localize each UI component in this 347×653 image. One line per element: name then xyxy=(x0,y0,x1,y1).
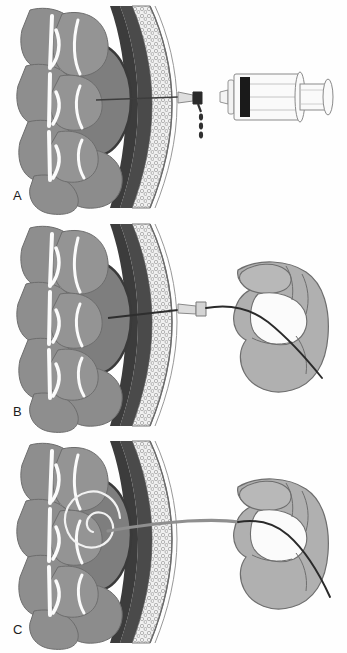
syringe-tip xyxy=(220,90,228,104)
syringe-plunger-rod xyxy=(300,84,326,110)
panel-label-b: B xyxy=(13,404,22,419)
needle-hub xyxy=(178,304,196,314)
panel-label-c: C xyxy=(13,622,23,637)
panel-b-illustration xyxy=(0,218,347,436)
fluid-droplets xyxy=(199,114,203,139)
panel-a xyxy=(0,0,347,218)
syringe-luer xyxy=(228,80,234,114)
panel-label-a: A xyxy=(13,188,22,203)
syringe-thumb-plate xyxy=(323,79,333,115)
panel-b xyxy=(0,218,347,436)
operator-hand xyxy=(234,479,329,609)
thumb xyxy=(240,481,292,510)
operator-hand xyxy=(234,262,329,392)
panel-c xyxy=(0,435,347,653)
needle-connector xyxy=(193,92,202,104)
needle-connector xyxy=(196,302,206,316)
thumb xyxy=(240,264,292,293)
panel-a-illustration xyxy=(0,0,347,218)
panel-c-illustration xyxy=(0,435,347,653)
syringe-plunger-stopper xyxy=(240,77,250,117)
